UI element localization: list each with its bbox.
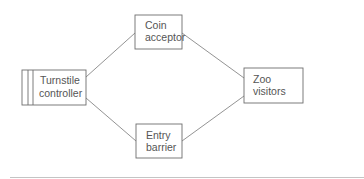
- node-label-line: acceptor: [145, 31, 186, 43]
- context-diagram: Turnstile controller Coin acceptor Entry…: [0, 0, 364, 179]
- node-zoo-visitors: Zoo visitors: [244, 68, 303, 103]
- node-label-line: Turnstile: [40, 74, 80, 86]
- edge-turnstile-coin: [86, 33, 135, 77]
- node-entry-barrier: Entry barrier: [136, 124, 182, 158]
- node-label-line: Coin: [145, 19, 167, 31]
- edge-barrier-visitors: [182, 96, 244, 141]
- node-label-line: Entry: [146, 129, 171, 141]
- node-label-line: Zoo: [253, 73, 271, 85]
- node-turnstile-controller: Turnstile controller: [22, 70, 86, 105]
- node-coin-acceptor: Coin acceptor: [135, 15, 186, 49]
- node-label-line: barrier: [146, 141, 177, 153]
- node-label-line: controller: [39, 87, 83, 99]
- edge-coin-visitors: [182, 33, 244, 78]
- node-label-line: visitors: [253, 85, 286, 97]
- edge-turnstile-barrier: [86, 98, 136, 141]
